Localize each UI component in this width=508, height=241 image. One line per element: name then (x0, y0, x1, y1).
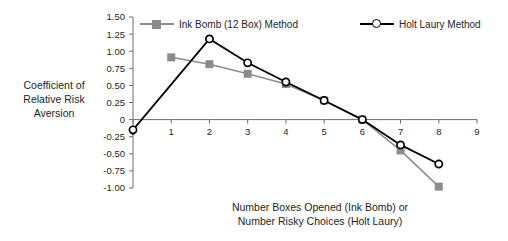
y-tick-label: 1.25 (107, 29, 126, 40)
y-tick-label: -0.75 (103, 165, 125, 176)
y-tick-label: 0.75 (107, 63, 126, 74)
chart-figure: Coefficient of Relative Risk Aversion Nu… (0, 0, 508, 241)
x-tick-label: 5 (321, 126, 326, 137)
y-tick-label: 1.50 (107, 11, 126, 22)
data-point-marker (244, 59, 251, 66)
y-tick-label: 1.00 (107, 46, 126, 57)
series-holt-laury (129, 35, 442, 167)
x-tick-label: 6 (360, 126, 365, 137)
series-ink-bomb (167, 53, 443, 190)
data-point-marker (167, 53, 175, 61)
y-tick-label: -1.00 (103, 182, 125, 193)
data-point-marker (129, 126, 136, 133)
y-tick-label: 0.25 (107, 97, 126, 108)
data-point-marker (206, 35, 213, 42)
data-point-marker (244, 70, 252, 78)
y-tick-label: 0.50 (107, 80, 126, 91)
data-point-marker (321, 97, 328, 104)
y-tick-label: 0 (120, 114, 125, 125)
data-point-marker (359, 116, 366, 123)
y-tick-label: -0.50 (103, 148, 125, 159)
x-tick-label: 7 (398, 126, 403, 137)
x-tick-label: 8 (436, 126, 441, 137)
y-tick-label: -0.25 (103, 131, 125, 142)
series-line (171, 57, 439, 186)
data-point-marker (435, 160, 442, 167)
x-tick-label: 4 (283, 126, 288, 137)
x-tick-label: 1 (169, 126, 174, 137)
series-line (133, 39, 439, 164)
x-tick-label: 3 (245, 126, 250, 137)
data-point-marker (282, 78, 289, 85)
data-point-marker (397, 141, 404, 148)
data-point-marker (205, 60, 213, 68)
plot-area: 1.501.251.000.750.500.250-0.25-0.50-0.75… (0, 0, 508, 241)
x-tick-label: 9 (474, 126, 479, 137)
data-point-marker (435, 183, 443, 191)
x-tick-label: 2 (207, 126, 212, 137)
